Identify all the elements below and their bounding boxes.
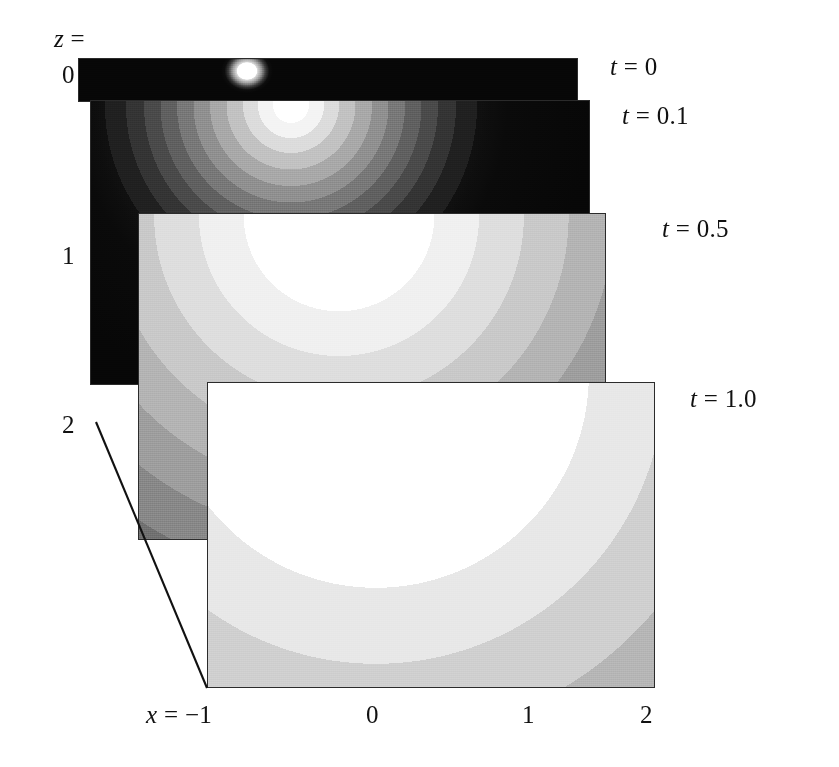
x-axis-label: x = −1: [146, 702, 212, 727]
x-tick-0: 0: [366, 702, 379, 727]
time-label-t0: t = 0: [610, 54, 658, 79]
time-label-t05: t = 0.5: [662, 216, 729, 241]
time-label-t10: t = 1.0: [690, 386, 757, 411]
depth-guide-line: [0, 0, 839, 767]
time-label-t01: t = 0.1: [622, 103, 689, 128]
x-tick-2: 2: [640, 702, 653, 727]
figure-canvas: z z == 0 1 2 t = 0 t = 0.1 t = 0.5 t = 1…: [0, 0, 839, 767]
x-tick-1: 1: [522, 702, 535, 727]
x-tick-neg1: −1: [185, 701, 212, 728]
